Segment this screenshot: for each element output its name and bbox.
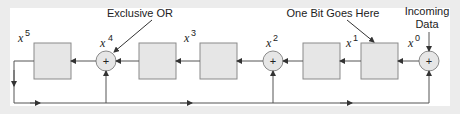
register-x1 (303, 43, 340, 79)
label-x0: x 0 (407, 33, 420, 50)
register-x5 (34, 43, 71, 79)
xor-annotation-label: Exclusive OR (107, 7, 173, 19)
register-mid (200, 43, 237, 79)
label-x3: x 3 (183, 28, 196, 45)
svg-text:x: x (17, 31, 24, 45)
svg-text:1: 1 (353, 33, 358, 43)
xor-plus-icon: + (270, 55, 276, 67)
svg-text:5: 5 (25, 28, 30, 38)
svg-text:x: x (183, 31, 190, 45)
svg-text:0: 0 (415, 33, 420, 43)
label-x4: x 4 (99, 33, 113, 50)
lfsr-diagram: + + + Exclusive OR One Bit Goes Here Inc… (0, 0, 460, 114)
xor-gate-x0: + (419, 51, 439, 71)
label-x1: x 1 (345, 33, 358, 50)
svg-text:4: 4 (108, 33, 113, 43)
one-bit-annotation-label: One Bit Goes Here (287, 7, 380, 19)
xor-plus-icon: + (426, 55, 432, 67)
svg-text:x: x (345, 36, 352, 50)
label-x2: x 2 (265, 33, 278, 50)
xor-plus-icon: + (103, 55, 109, 67)
svg-text:x: x (99, 36, 106, 50)
svg-text:3: 3 (191, 28, 196, 38)
incoming-label-line1: Incoming (405, 5, 450, 17)
svg-text:x: x (407, 36, 414, 50)
svg-text:2: 2 (273, 33, 278, 43)
xor-gate-x2: + (263, 51, 283, 71)
incoming-label-line2: Data (415, 18, 439, 30)
svg-text:x: x (265, 36, 272, 50)
label-x5: x 5 (17, 28, 30, 45)
xor-gate-x4: + (96, 51, 116, 71)
register-x0 (361, 43, 398, 79)
register-x3 (139, 43, 176, 79)
